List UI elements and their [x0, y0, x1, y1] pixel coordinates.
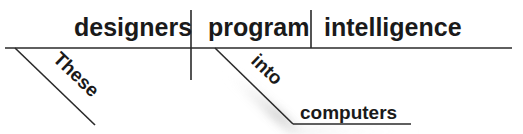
word-prepositional-object: computers	[300, 102, 397, 123]
word-modifier: These	[49, 48, 103, 101]
word-object: intelligence	[324, 13, 462, 41]
word-preposition: into	[247, 50, 287, 89]
word-verb: program	[208, 13, 309, 41]
word-subject: designers	[74, 13, 192, 41]
sentence-diagram: designers program intelligence These int…	[0, 0, 523, 134]
